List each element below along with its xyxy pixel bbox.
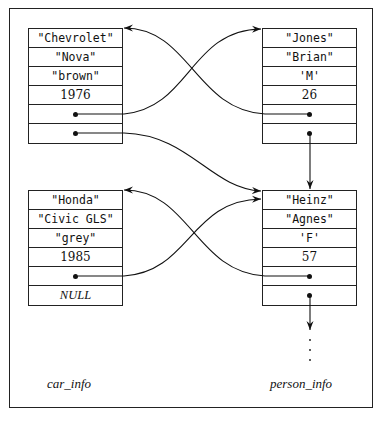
arrow-jones-to-car1 [124, 28, 311, 114]
car-info-label: car_info [47, 376, 91, 392]
arrow-car1-next [78, 133, 261, 191]
person-info-label: person_info [270, 376, 332, 392]
arrow-car2-to-heinz [78, 199, 261, 276]
arrow-car1-to-jones [78, 29, 261, 114]
arrow-heinz-to-car2 [124, 190, 311, 276]
pointer-arrows [0, 0, 385, 422]
